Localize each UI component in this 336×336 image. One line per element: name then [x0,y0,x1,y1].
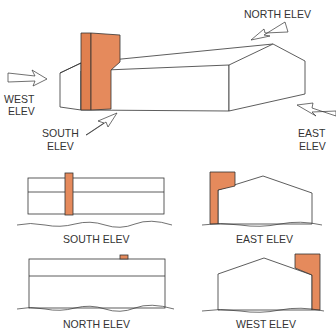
east-arrow-icon [297,103,336,116]
north-arrow-icon [251,22,288,40]
label-east-elev-1: EAST [298,127,325,139]
elevation-diagram [0,0,336,336]
south-arrow-icon [86,113,117,135]
label-east-elev-2: ELEV [299,140,326,152]
east-elevation [202,172,322,226]
label-south-elev-2: ELEV [47,140,74,152]
label-north-elev: NORTH ELEV [244,8,311,20]
west-elevation [202,254,324,312]
north-elevation [17,255,174,311]
label-west-elev-1: WEST [4,93,34,105]
label-south-elev-1: SOUTH [42,127,79,139]
label-south-elevation: SOUTH ELEV [63,233,130,245]
label-west-elevation: WEST ELEV [236,318,296,330]
label-east-elevation: EAST ELEV [236,233,293,245]
south-elevation [17,173,172,227]
west-arrow-icon [8,70,47,86]
label-west-elev-2: ELEV [8,105,35,117]
label-north-elevation: NORTH ELEV [63,318,130,330]
